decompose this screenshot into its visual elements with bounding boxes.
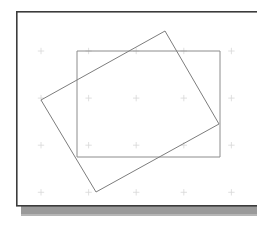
- paper-shadow: [21, 206, 257, 214]
- paper-shadow-edge: [21, 214, 257, 216]
- paper-shadow-group: [21, 206, 257, 216]
- paper-sheet: [17, 12, 257, 206]
- figure-canvas: [0, 0, 257, 226]
- figure-svg: [0, 0, 257, 226]
